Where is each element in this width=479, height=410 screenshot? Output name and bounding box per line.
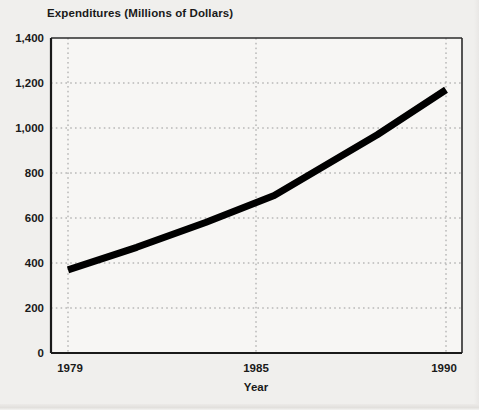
scan-edge-right [474,0,479,410]
x-tick-label: 1985 [243,362,269,374]
y-tick-label: 1,400 [15,32,44,44]
y-tick-label: 400 [25,257,44,269]
plot-area-background [51,38,462,353]
x-axis-title: Year [244,381,269,393]
x-tick-label: 1990 [431,362,457,374]
x-axis-tick-labels: 1979 1985 1990 [57,362,457,374]
y-tick-label: 600 [25,212,44,224]
y-axis-tick-labels: 1,400 1,200 1,000 800 600 400 200 0 [15,32,44,359]
scan-edge-bottom [0,404,479,410]
y-tick-label: 800 [25,167,44,179]
y-tick-label: 1,000 [15,122,44,134]
y-tick-label: 0 [38,347,44,359]
x-tick-label: 1979 [57,362,83,374]
line-chart-plot: 1,400 1,200 1,000 800 600 400 200 0 1979… [0,0,479,410]
y-tick-label: 1,200 [15,77,44,89]
y-tick-label: 200 [25,302,44,314]
chart-figure: Expenditures (Millions of Dollars) [0,0,479,410]
